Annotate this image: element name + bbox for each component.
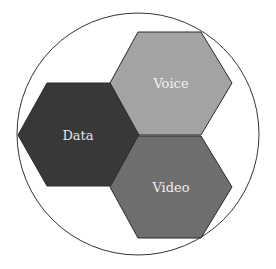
hexagon-data-label: Data <box>62 128 93 143</box>
hexagon-voice-label: Voice <box>152 76 188 91</box>
diagram-canvas: Voice Data Video <box>0 0 276 269</box>
hexagon-video-label: Video <box>151 180 189 195</box>
